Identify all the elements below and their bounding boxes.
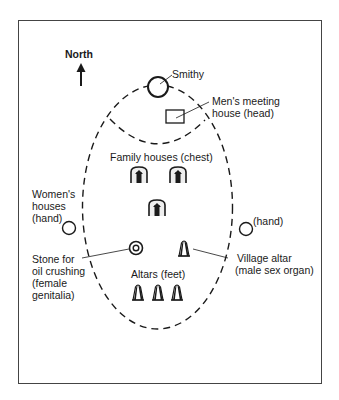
altars-label: Altars (feet) <box>131 268 185 280</box>
smithy-label: Smithy <box>172 68 204 80</box>
oil-stone-leader-line <box>82 249 129 258</box>
oil-stone-icon <box>130 242 143 255</box>
village-altar-label-line1: Village altar <box>237 252 292 264</box>
head-arc <box>110 119 205 144</box>
village-altar-leader-line <box>193 249 228 258</box>
womens-houses-label-line1: Women's <box>32 188 75 200</box>
mens-house-label-line1: Men's meeting <box>212 95 280 107</box>
womens-houses-label-line3: (hand) <box>32 212 62 224</box>
altar-icon <box>171 285 183 300</box>
north-label: North <box>65 48 93 60</box>
family-house-icon <box>149 200 165 216</box>
family-house-icon <box>131 167 147 183</box>
right-hand-label: (hand) <box>253 215 283 227</box>
right-hand-circle-icon <box>240 223 253 236</box>
oil-stone-label-line3: (female <box>32 277 67 289</box>
altar-icon <box>132 285 144 300</box>
altar-icon <box>152 285 164 300</box>
family-house-icon <box>170 167 186 183</box>
village-altar-icon <box>178 241 190 256</box>
north-arrow-icon <box>77 63 86 86</box>
womens-houses-label-line2: houses <box>32 200 66 212</box>
village-altar-label-line2: (male sex organ) <box>235 264 314 276</box>
oil-stone-label-line1: Stone for <box>32 253 75 265</box>
mens-house-rect-icon <box>166 110 184 123</box>
womens-houses-circle-icon <box>63 222 76 235</box>
mens-house-label-line2: house (head) <box>212 107 274 119</box>
oil-stone-label-line4: genitalia) <box>32 289 75 301</box>
family-houses-label: Family houses (chest) <box>110 151 213 163</box>
oil-stone-label-line2: oil crushing <box>32 265 85 277</box>
